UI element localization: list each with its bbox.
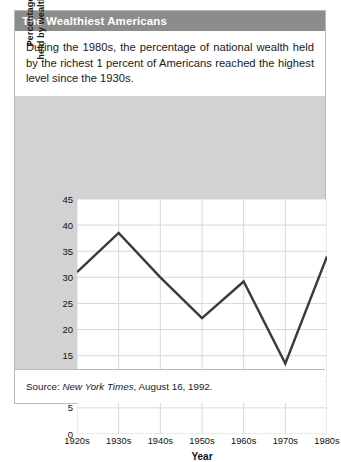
source-panel: Source: New York Times, August 16, 1992. — [15, 369, 325, 403]
x-axis-tick: 1970s — [273, 436, 298, 446]
intro-paragraph: During the 1980s, the percentage of nati… — [26, 40, 314, 87]
chart-panel: Percentage of national wealth held by we… — [15, 96, 325, 383]
source-publication: New York Times — [63, 381, 134, 392]
x-axis-tick: 1980s — [314, 436, 339, 446]
y-axis-tick: 15 — [62, 350, 73, 361]
y-axis-title-line2: held by wealthiest 1% of Americans — [36, 0, 48, 59]
y-axis-tick: 45 — [62, 193, 73, 204]
intro-panel: During the 1980s, the percentage of nati… — [15, 31, 325, 96]
x-axis-title: Year — [77, 451, 327, 462]
y-axis-tick: 25 — [62, 297, 73, 308]
x-axis-tick: 1930s — [106, 436, 131, 446]
y-axis-tick: 5 — [68, 402, 73, 413]
y-axis-title: Percentage of national wealth held by we… — [23, 0, 49, 96]
source-note: Source: New York Times, August 16, 1992. — [26, 381, 213, 392]
x-axis-tick: 1920s — [64, 436, 89, 446]
x-axis-tick: 1960s — [231, 436, 256, 446]
y-axis-tick: 20 — [62, 324, 73, 335]
source-prefix: Source: — [26, 381, 63, 392]
source-suffix: , August 16, 1992. — [134, 381, 213, 392]
y-axis-tick: 40 — [62, 219, 73, 230]
y-axis-tick: 30 — [62, 271, 73, 282]
figure-header-bar: The Wealthiest Americans — [15, 11, 325, 31]
figure-card: The Wealthiest Americans During the 1980… — [14, 10, 326, 404]
x-axis-tick: 1940s — [148, 436, 173, 446]
x-axis-tick: 1950s — [189, 436, 214, 446]
y-axis-tick: 35 — [62, 245, 73, 256]
y-axis-title-line1: Percentage of national wealth — [25, 0, 37, 46]
x-axis-tick-labels: 1920s1930s1940s1950s1960s1970s1980s — [77, 436, 327, 450]
